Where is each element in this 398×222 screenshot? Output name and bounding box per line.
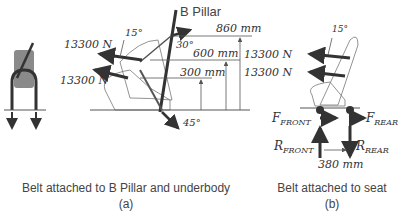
- caption-b-sub: (b): [325, 197, 340, 211]
- force-upper-b: 13300 N: [244, 48, 292, 61]
- caption-a-sub: (a): [119, 197, 134, 211]
- f-front: FFRONT: [271, 111, 311, 127]
- force-upper-a: 13300 N: [64, 38, 112, 51]
- r-rear: RREAR: [355, 139, 389, 155]
- panel-b: 13300 N 13300 N 15° FFRONT FREAR RFRONT …: [244, 24, 398, 171]
- seat-front-icon: [4, 43, 46, 128]
- dim-300: 300 mm: [180, 66, 225, 79]
- angle-15-b: 15°: [332, 24, 348, 34]
- force-lower-a: 13300 N: [60, 74, 108, 87]
- r-front: RFRONT: [273, 139, 314, 155]
- panel-a: B Pillar 13300 N 13300 N 15° 30° 45° 860…: [60, 4, 261, 128]
- caption-a: Belt attached to B Pillar and underbody: [22, 181, 230, 195]
- angle-15-a: 15°: [125, 27, 143, 38]
- dim-600: 600 mm: [193, 47, 238, 60]
- seat-belt-diagram: B Pillar 13300 N 13300 N 15° 30° 45° 860…: [0, 0, 398, 222]
- force-lower-b: 13300 N: [244, 66, 292, 79]
- f-rear: FREAR: [365, 111, 398, 127]
- angle-45: 45°: [182, 117, 201, 128]
- dim-380: 380 mm: [318, 158, 363, 171]
- caption-b: Belt attached to seat: [277, 181, 387, 195]
- angle-30: 30°: [176, 39, 194, 50]
- dim-860: 860 mm: [216, 22, 261, 35]
- bpillar-label: B Pillar: [180, 4, 222, 19]
